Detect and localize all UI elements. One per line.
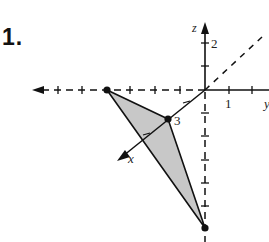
vertex-negative-y-dot xyxy=(103,86,110,93)
negative-y-arrow-icon xyxy=(32,86,44,94)
y-axis-label: y xyxy=(262,96,269,111)
vertex-negative-z-dot xyxy=(201,224,208,231)
vertex-x3-dot xyxy=(164,115,171,122)
z-tick-label-2: 2 xyxy=(211,36,218,51)
figure-root: 1. 1 y 2 z xyxy=(0,0,269,242)
z-axis-label: z xyxy=(191,21,197,35)
y-tick-label-1: 1 xyxy=(225,96,232,111)
x-tick-label-3: 3 xyxy=(174,113,181,128)
axes-diagram: 1 y 2 z x 3 xyxy=(0,0,269,242)
z-arrow-icon xyxy=(201,22,209,34)
x-axis-label: x xyxy=(127,151,134,166)
